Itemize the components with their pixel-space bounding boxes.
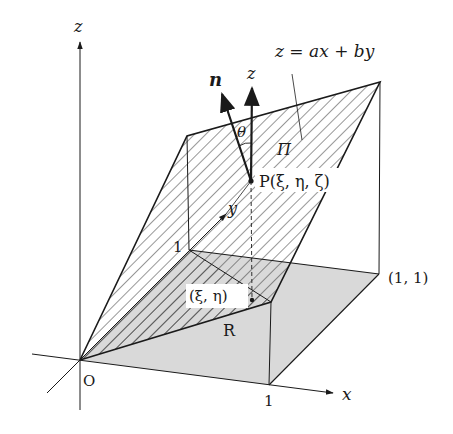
normal-vector-label: n bbox=[209, 69, 222, 90]
plane-name-label: Π bbox=[276, 140, 292, 159]
vertical-vector-z bbox=[251, 88, 252, 181]
point-p-label: P(ξ, η, ζ) bbox=[259, 172, 330, 191]
vertical-edge-1-1 bbox=[379, 82, 380, 274]
theta-label: θ bbox=[237, 123, 246, 141]
region-label: R bbox=[223, 321, 236, 340]
point-xi-eta bbox=[250, 298, 254, 302]
y-axis-back bbox=[47, 360, 80, 393]
y-axis-label: y bbox=[227, 199, 238, 218]
figure: z x y O 1 1 z = ax + by Π R (1, 1) P(ξ, … bbox=[0, 0, 453, 434]
z-axis-label: z bbox=[73, 17, 83, 36]
plane-equation-label: z = ax + by bbox=[274, 41, 375, 61]
x-axis-label: x bbox=[342, 384, 352, 404]
y-tick-1: 1 bbox=[173, 238, 183, 256]
point-xi-eta-label: (ξ, η) bbox=[189, 287, 228, 305]
x-tick-1: 1 bbox=[264, 392, 274, 410]
point-p bbox=[248, 178, 253, 183]
vertical-vector-label: z bbox=[246, 64, 256, 83]
origin-label: O bbox=[83, 372, 95, 390]
corner-1-1-label: (1, 1) bbox=[388, 269, 428, 287]
diagram-canvas: z x y O 1 1 z = ax + by Π R (1, 1) P(ξ, … bbox=[0, 0, 453, 434]
